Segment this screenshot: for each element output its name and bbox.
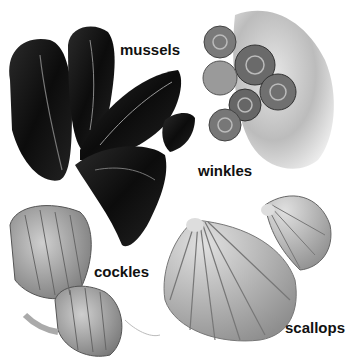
label-scallops: scallops [285,320,345,335]
label-winkles: winkles [198,163,252,178]
shellfish-illustration: mussels winkles cockles scallops [0,0,351,362]
winkles-group [203,11,334,169]
label-cockles: cockles [94,264,149,279]
label-mussels: mussels [120,42,180,57]
